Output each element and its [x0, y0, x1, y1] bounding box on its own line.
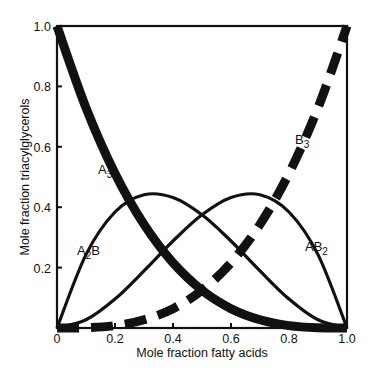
y-tick-label: 0.8	[34, 80, 51, 94]
series-b3-line	[57, 26, 347, 328]
x-axis-label: Mole fraction fatty acids	[136, 346, 267, 360]
x-tick-label: 0	[54, 332, 61, 346]
y-tick-label: 0.2	[34, 262, 51, 276]
curves	[57, 26, 347, 328]
x-tick-label: 0.6	[222, 332, 239, 346]
series-a3-line	[57, 26, 347, 328]
y-tick-label: 0.6	[34, 141, 51, 155]
series-label-a2b: A2B	[77, 243, 100, 261]
chart: 00.20.40.60.81.00.20.40.60.81.0 Mole fra…	[0, 0, 371, 374]
x-tick-label: 0.4	[164, 332, 181, 346]
x-tick-label: 0.8	[280, 332, 297, 346]
y-tick-label: 0.4	[34, 201, 51, 215]
plot-frame	[57, 26, 347, 328]
x-tick-label: 1.0	[338, 332, 355, 346]
y-axis-label: Mole fraction triacylglycerols	[18, 99, 32, 256]
series-ab2-line	[57, 194, 347, 328]
x-tick-label: 0.2	[106, 332, 123, 346]
y-tick-label: 1.0	[34, 20, 51, 34]
